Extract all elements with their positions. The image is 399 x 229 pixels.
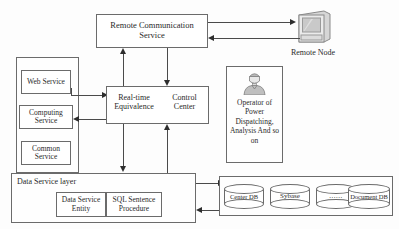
arrowhead-center-to-data <box>120 166 126 172</box>
connector-data-to-db <box>196 183 220 184</box>
node-remote-communication-service: Remote Communication Service <box>96 14 208 48</box>
connector-node-to-comm <box>214 38 300 39</box>
cylinder-bottom <box>224 199 264 209</box>
diagram-canvas: Remote Communication Service Remote Node… <box>0 0 399 229</box>
database-label: Sybase <box>270 193 310 200</box>
node-realtime-equivalence: Real-time Equivalence <box>108 94 160 112</box>
arrowhead-db-to-data <box>196 207 202 213</box>
connector-center-to-data <box>123 124 124 166</box>
arrowhead-node-to-comm <box>208 35 214 41</box>
arrowhead-center-to-comm <box>120 48 126 54</box>
node-computing-service: Computing Service <box>19 105 73 129</box>
database-cylinder: Document DB <box>348 184 390 209</box>
label-data-service-layer: Data Service layer <box>17 178 112 187</box>
arrowhead-data-to-center <box>164 124 170 130</box>
label-operator: Operator of Power Dispatching, Analysis … <box>228 98 281 145</box>
cylinder-bottom <box>348 199 390 209</box>
node-sql-sentence-procedure: SQL Sentence Procedure <box>106 192 162 217</box>
connector-center-to-comm <box>123 54 124 86</box>
connector-realtime-to-computing <box>79 119 107 120</box>
arrowhead-comm-to-node <box>290 19 296 25</box>
node-data-service-entity: Data Service Entity <box>56 192 106 217</box>
connector-comm-to-center <box>167 48 168 80</box>
cylinder-bottom <box>270 199 310 209</box>
arrowhead-realtime-to-computing <box>73 116 79 122</box>
connector-web-to-realtime <box>71 95 104 96</box>
database-cylinder: Sybase <box>270 184 310 209</box>
database-cylinder: Center DB <box>224 184 264 209</box>
person-icon <box>241 69 268 95</box>
label-remote-node: Remote Node <box>276 49 350 58</box>
database-label: Center DB <box>224 193 264 200</box>
connector-data-to-center <box>167 130 168 173</box>
node-common-service: Common Service <box>21 141 71 165</box>
connector-comm-to-node <box>208 22 292 23</box>
monitor-icon <box>293 9 333 47</box>
arrowhead-comm-to-center <box>164 80 170 86</box>
connector-web-stub <box>71 88 72 95</box>
database-label: Document DB <box>348 193 390 200</box>
node-web-service: Web Service <box>21 70 71 94</box>
node-control-center: Control Center <box>162 94 207 112</box>
